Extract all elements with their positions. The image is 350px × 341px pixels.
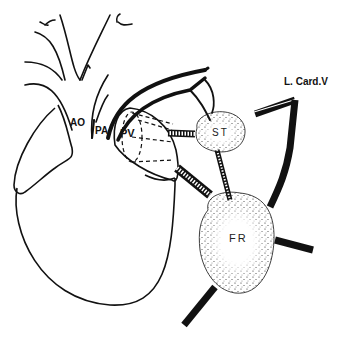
label-pulmonary-artery: PA	[95, 126, 108, 136]
heart-diagram	[0, 0, 350, 341]
label-pulmonary-vein: PV	[120, 128, 135, 139]
pulmonary-artery	[92, 68, 210, 140]
upper-vein-line	[205, 80, 214, 113]
label-left-cardiac-vein: L. Card.V	[284, 77, 328, 87]
label-st: ST	[212, 128, 229, 138]
left-atrium	[114, 108, 178, 181]
label-fr: FR	[229, 233, 248, 244]
label-aorta: AO	[70, 118, 85, 128]
